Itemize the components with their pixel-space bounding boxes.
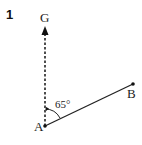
label-g: G — [40, 10, 49, 25]
angle-label: 65° — [55, 98, 70, 110]
question-number: 1 — [6, 7, 13, 22]
arrow-head-icon — [42, 26, 49, 35]
label-a: A — [34, 119, 44, 134]
label-b: B — [127, 86, 136, 101]
bearing-diagram: 1 G A B 65° — [0, 0, 142, 145]
point-a — [43, 124, 47, 128]
angle-arc — [45, 109, 60, 118]
